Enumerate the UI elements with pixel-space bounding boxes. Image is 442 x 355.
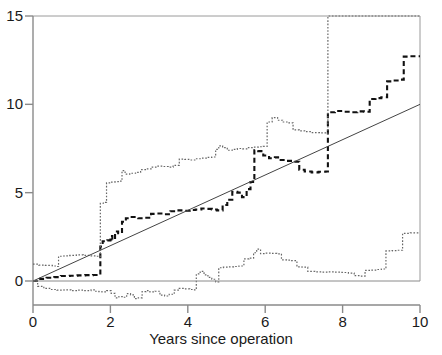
x-axis-title: Years since operation — [0, 330, 442, 347]
x-tick-label: 6 — [250, 314, 280, 329]
plot-area — [0, 0, 442, 355]
series-reference-line — [33, 104, 420, 281]
y-tick-marks — [25, 16, 33, 281]
data-series-layer — [33, 16, 420, 299]
series-estimate — [33, 56, 420, 281]
y-tick-label: 0 — [0, 273, 23, 288]
y-tick-label: 5 — [0, 185, 23, 200]
x-tick-label: 4 — [173, 314, 203, 329]
x-tick-label: 2 — [95, 314, 125, 329]
series-lower-confidence-band — [33, 233, 420, 299]
x-tick-marks — [33, 305, 420, 313]
series-upper-confidence-band — [33, 16, 420, 267]
y-tick-label: 15 — [0, 8, 23, 23]
x-axis — [33, 305, 420, 313]
y-tick-label: 10 — [0, 96, 23, 111]
x-tick-label: 10 — [405, 314, 435, 329]
x-tick-label: 8 — [328, 314, 358, 329]
chart-figure: 051015 0246810 Years since operation — [0, 0, 442, 355]
y-axis — [25, 16, 33, 305]
plot-frame — [33, 16, 420, 281]
x-tick-label: 0 — [18, 314, 48, 329]
